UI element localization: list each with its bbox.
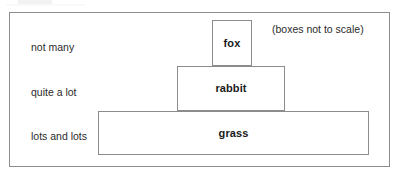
scale-note: (boxes not to scale) (272, 24, 364, 35)
abundance-caption-grass: lots and lots (31, 131, 87, 142)
level-box-grass: grass (98, 111, 369, 155)
level-label-fox: fox (224, 38, 241, 49)
pyramid-of-numbers-diagram: not many quite a lot lots and lots fox r… (0, 0, 398, 178)
scan-artifact-secondary (6, 4, 86, 6)
level-box-rabbit: rabbit (177, 66, 285, 111)
level-label-grass: grass (219, 128, 249, 139)
level-label-rabbit: rabbit (215, 83, 246, 94)
abundance-caption-fox: not many (31, 42, 74, 53)
abundance-caption-rabbit: quite a lot (31, 87, 77, 98)
level-box-fox: fox (212, 20, 252, 66)
